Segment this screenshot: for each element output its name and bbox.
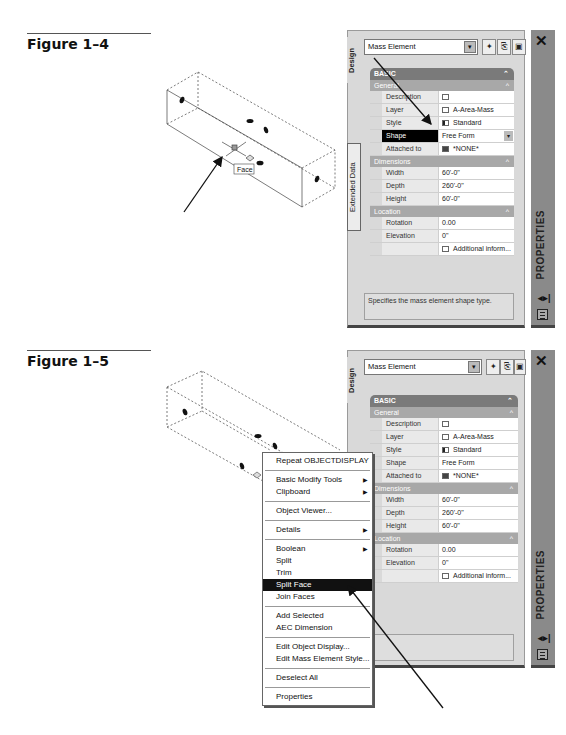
property-value[interactable]: 0" (439, 557, 518, 569)
menu-item-properties[interactable]: Properties (263, 691, 372, 703)
property-row[interactable]: Width60'-0" (370, 494, 518, 507)
property-value[interactable]: 0" (439, 230, 514, 242)
section-header-location[interactable]: Location^ (370, 206, 514, 217)
menu-item-basic-modify-tools[interactable]: Basic Modify Tools▶ (263, 474, 372, 486)
property-value[interactable]: 60'-0" (439, 520, 518, 532)
quick-select-button[interactable]: ⎘ (497, 39, 511, 55)
object-type-combo[interactable]: Mass Element ▾ (364, 359, 482, 375)
property-row[interactable]: Rotation0.00 (370, 544, 518, 557)
chevron-down-icon[interactable]: ▾ (464, 41, 476, 53)
close-icon[interactable]: ✕ (535, 32, 548, 50)
property-value[interactable]: *NONE* (439, 143, 514, 155)
object-type-combo[interactable]: Mass Element ▾ (364, 39, 478, 55)
close-icon[interactable]: ✕ (535, 352, 548, 370)
edit-text-icon[interactable] (442, 573, 449, 579)
tab-design[interactable]: Design (347, 357, 361, 403)
property-row[interactable]: Attached to*NONE* (370, 143, 514, 156)
property-value[interactable]: 60'-0" (439, 193, 514, 205)
menu-item-join-faces[interactable]: Join Faces (263, 591, 372, 603)
menu-item-trim[interactable]: Trim (263, 567, 372, 579)
property-row[interactable]: Attached to*NONE* (370, 470, 518, 483)
property-value[interactable]: *NONE* (439, 470, 518, 482)
property-value[interactable]: 60'-0" (439, 167, 514, 179)
edit-text-icon[interactable] (442, 421, 449, 427)
property-value[interactable]: Free Form▾ (439, 130, 514, 142)
section-header-dimensions[interactable]: Dimensions^ (370, 156, 514, 167)
menu-item-repeat-objectdisplay[interactable]: Repeat OBJECTDISPLAY (263, 455, 372, 467)
properties-menu-icon[interactable] (537, 649, 548, 660)
collapse-icon[interactable]: ^ (510, 407, 513, 418)
property-value[interactable]: Standard (439, 117, 514, 129)
property-value[interactable]: 260'-0" (439, 180, 514, 192)
menu-item-object-viewer[interactable]: Object Viewer... (263, 505, 372, 517)
property-row[interactable]: Depth260'-0" (370, 180, 514, 193)
property-value[interactable]: 260'-0" (439, 507, 518, 519)
menu-item-edit-object-display[interactable]: Edit Object Display... (263, 641, 372, 653)
menu-item-split[interactable]: Split (263, 555, 372, 567)
property-row[interactable]: LayerA-Area-Mass (370, 431, 518, 444)
palette-titlebar[interactable]: ✕ PROPERTIES ◂▸| (531, 350, 555, 668)
edit-text-icon[interactable] (442, 246, 449, 252)
menu-item-edit-mass-element-style[interactable]: Edit Mass Element Style... (263, 653, 372, 665)
section-header-general[interactable]: General^ (370, 407, 518, 418)
property-row[interactable]: Depth260'-0" (370, 507, 518, 520)
property-row[interactable]: Additional inform... (370, 570, 518, 583)
property-value[interactable]: Free Form (439, 457, 518, 469)
menu-item-clipboard[interactable]: Clipboard▶ (263, 486, 372, 498)
tab-design[interactable]: Design (347, 37, 361, 83)
basic-category-header[interactable]: BASIC⌃ (370, 68, 514, 80)
property-value[interactable]: 60'-0" (439, 494, 518, 506)
property-row[interactable]: Additional inform... (370, 243, 514, 256)
property-value[interactable]: Additional inform... (439, 570, 518, 582)
property-value[interactable]: A-Area-Mass (439, 431, 518, 443)
menu-item-split-face[interactable]: Split Face (263, 579, 372, 591)
chevron-down-icon[interactable]: ▾ (468, 361, 480, 373)
property-row[interactable]: Rotation0.00 (370, 217, 514, 230)
property-row[interactable]: Height60'-0" (370, 193, 514, 206)
tab-extended-data[interactable]: Extended Data (347, 143, 361, 231)
collapse-icon[interactable]: ^ (510, 483, 513, 494)
property-value[interactable]: 0.00 (439, 544, 518, 556)
property-value[interactable]: Standard (439, 444, 518, 456)
collapse-icon[interactable]: ⌃ (507, 395, 513, 407)
property-row[interactable]: Width60'-0" (370, 167, 514, 180)
menu-item-boolean[interactable]: Boolean▶ (263, 543, 372, 555)
menu-item-add-selected[interactable]: Add Selected (263, 610, 372, 622)
menu-item-aec-dimension[interactable]: AEC Dimension (263, 622, 372, 634)
section-header-dimensions[interactable]: Dimensions^ (370, 483, 518, 494)
property-row[interactable]: LayerA-Area-Mass (370, 104, 514, 117)
property-row[interactable]: Elevation0" (370, 557, 518, 570)
section-header-general[interactable]: General^ (370, 80, 514, 91)
property-row[interactable]: StyleStandard (370, 117, 514, 130)
properties-menu-icon[interactable] (537, 309, 548, 320)
palette-titlebar[interactable]: ✕ PROPERTIES ◂▸| (531, 30, 555, 328)
menu-item-details[interactable]: Details▶ (263, 524, 372, 536)
collapse-icon[interactable]: ^ (506, 80, 509, 91)
collapse-icon[interactable]: ^ (506, 206, 509, 217)
collapse-icon[interactable]: ^ (506, 156, 509, 167)
property-value[interactable] (439, 418, 518, 430)
select-objects-button[interactable]: ✦ (486, 359, 500, 375)
autohide-icon[interactable]: ◂▸| (538, 633, 551, 643)
mass-element-viewport[interactable]: Face (140, 70, 340, 220)
property-row[interactable]: Elevation0" (370, 230, 514, 243)
property-value[interactable]: Additional inform... (439, 243, 514, 255)
autohide-icon[interactable]: ◂▸| (538, 293, 551, 303)
menu-item-deselect-all[interactable]: Deselect All (263, 672, 372, 684)
property-row[interactable]: ShapeFree Form (370, 457, 518, 470)
property-row[interactable]: Description (370, 91, 514, 104)
basic-category-header[interactable]: BASIC⌃ (370, 395, 518, 407)
select-objects-button[interactable]: ✦ (482, 39, 496, 55)
property-value[interactable]: A-Area-Mass (439, 104, 514, 116)
property-row[interactable]: StyleStandard (370, 444, 518, 457)
property-row[interactable]: Description (370, 418, 518, 431)
property-row[interactable]: ShapeFree Form▾ (370, 130, 514, 143)
quick-select-button[interactable]: ⎘ (500, 359, 514, 375)
property-value[interactable]: 0.00 (439, 217, 514, 229)
toggle-pickadd-button[interactable]: ▣ (512, 39, 526, 55)
section-header-location[interactable]: Location^ (370, 533, 518, 544)
collapse-icon[interactable]: ^ (510, 533, 513, 544)
collapse-icon[interactable]: ⌃ (503, 68, 509, 80)
chevron-down-icon[interactable]: ▾ (504, 131, 513, 141)
property-value[interactable] (439, 91, 514, 103)
